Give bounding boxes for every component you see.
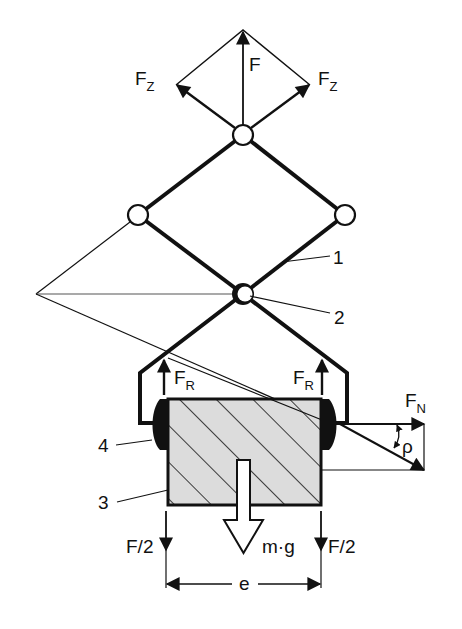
force-Fz-right-arrow <box>251 85 309 128</box>
construction-lines <box>36 222 332 424</box>
label-half-left: F/2 <box>126 536 153 557</box>
force-parallelogram <box>176 30 310 128</box>
label-Fz-right: FZ <box>318 68 338 94</box>
rho-angle-arc <box>394 425 399 448</box>
callout-2: 2 <box>334 307 345 328</box>
diagram-canvas: F FZ FZ 1 2 FR FR <box>0 0 462 629</box>
label-half-right: F/2 <box>328 536 355 557</box>
label-weight: m·g <box>262 536 295 557</box>
force-Fz-left-arrow <box>177 85 235 128</box>
label-F: F <box>249 54 261 75</box>
label-Fr-right: FR <box>293 367 314 393</box>
right-joint <box>335 205 355 225</box>
gripper-force-diagram: F FZ FZ 1 2 FR FR <box>0 0 462 629</box>
left-joint <box>128 205 148 225</box>
label-distance-e: e <box>239 573 250 594</box>
label-Fn: FN <box>405 390 426 416</box>
callout-4: 4 <box>98 435 109 456</box>
label-Fz-left: FZ <box>135 68 155 94</box>
left-jaw-pad <box>153 399 169 450</box>
right-jaw-pad <box>321 399 337 450</box>
callout-1: 1 <box>333 247 344 268</box>
central-pivot <box>232 283 254 305</box>
callout-3: 3 <box>98 492 109 513</box>
label-Fr-left: FR <box>174 367 195 393</box>
lever-arms <box>138 135 347 423</box>
top-joint <box>233 125 253 145</box>
label-rho: ρ <box>402 436 413 457</box>
